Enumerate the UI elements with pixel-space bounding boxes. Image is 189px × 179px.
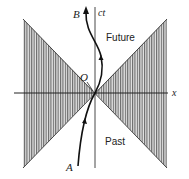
- point-label-a: A: [65, 161, 73, 173]
- arrowhead-b-icon: [83, 6, 89, 14]
- spacetime-diagram: B ct x O A Future Past: [0, 0, 189, 179]
- arrowhead-mid-lower-icon: [82, 118, 87, 124]
- region-label-past: Past: [105, 136, 125, 147]
- point-label-o: O: [80, 71, 88, 83]
- region-label-future: Future: [106, 32, 135, 43]
- point-label-b: B: [73, 8, 80, 20]
- axis-label-x: x: [171, 87, 177, 98]
- arrowhead-mid-upper-icon: [99, 55, 104, 60]
- axis-label-ct: ct: [98, 7, 105, 18]
